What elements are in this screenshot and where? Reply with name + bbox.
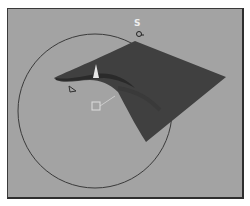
gizmo-label: S — [134, 18, 140, 28]
direction-arrow-icon[interactable] — [69, 86, 76, 92]
target-square-icon[interactable] — [92, 102, 100, 110]
target-leader-line — [100, 96, 115, 106]
surface-patch[interactable] — [54, 41, 226, 142]
rotate-handle-icon[interactable] — [137, 32, 142, 37]
scene-canvas[interactable] — [0, 0, 250, 206]
